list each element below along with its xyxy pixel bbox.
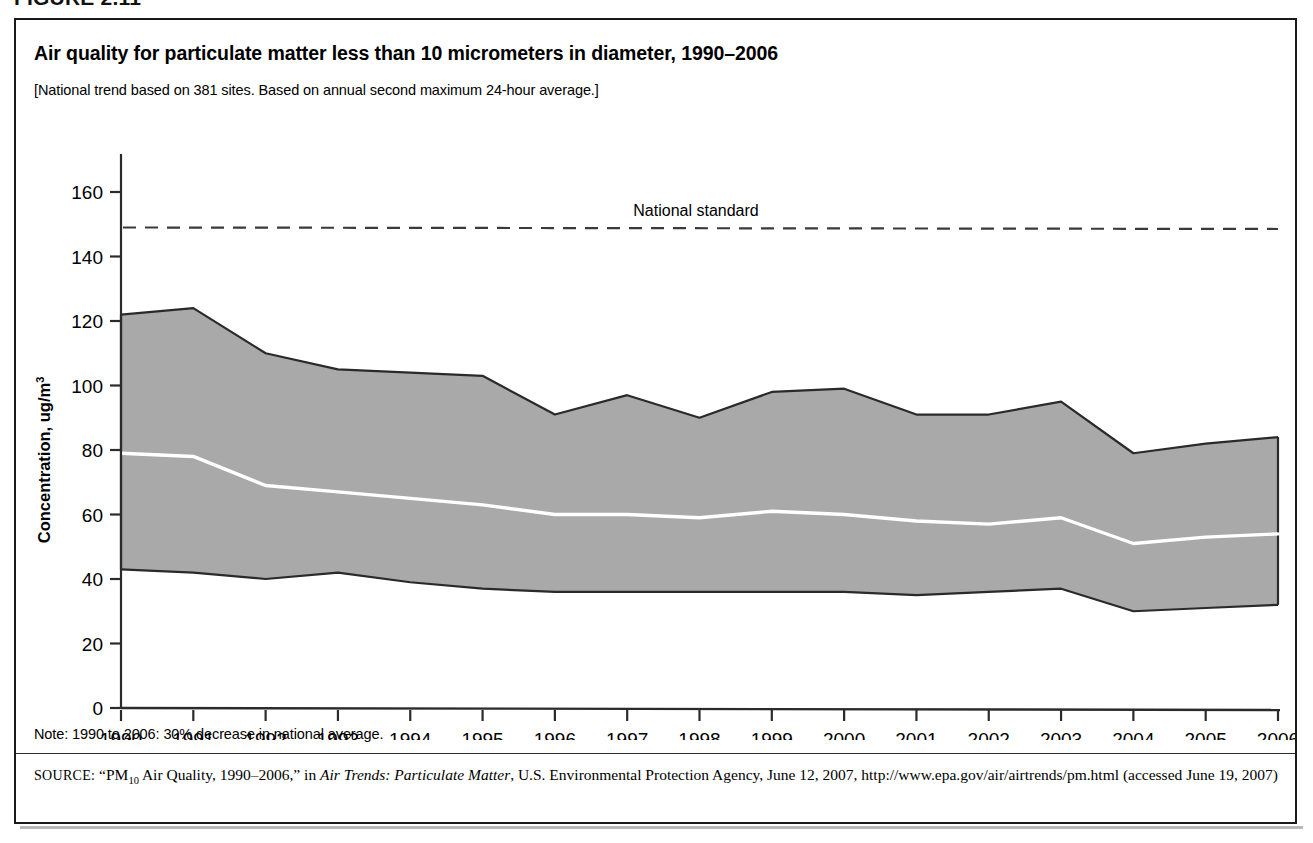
x-axis-tick-label: 2000 <box>823 729 865 740</box>
footer-divider <box>16 753 1295 754</box>
y-axis-tick-label: 0 <box>92 698 103 719</box>
national-standard-label: National standard <box>633 202 758 219</box>
y-axis-tick-label: 100 <box>71 376 103 397</box>
x-axis-line <box>121 708 1280 710</box>
figure-title: Air quality for particulate matter less … <box>34 42 778 65</box>
national-standard-line <box>123 227 1278 229</box>
x-axis-tick-label: 1996 <box>534 729 576 740</box>
y-axis-tick-label: 60 <box>82 505 103 526</box>
x-axis-tick-label: 1997 <box>606 729 648 740</box>
chart-note: Note: 1990 to 2006: 30% decrease in nati… <box>34 726 383 742</box>
x-axis-tick-label: 1999 <box>751 729 793 740</box>
x-axis-tick-label: 1995 <box>461 729 503 740</box>
source-text-3: , U.S. Environmental Protection Agency, … <box>510 766 1278 783</box>
y-axis-tick-label: 120 <box>71 311 103 332</box>
chart-plot-area: National standard02040608010012014016019… <box>16 130 1295 740</box>
x-axis-tick-label: 1998 <box>678 729 720 740</box>
figure-box: Air quality for particulate matter less … <box>14 18 1297 824</box>
y-axis-title: Concentration, ug/m3 <box>34 377 53 544</box>
x-axis-tick-label: 2005 <box>1185 729 1227 740</box>
concentration-band-fill <box>121 308 1278 611</box>
y-axis-tick-label: 40 <box>82 569 103 590</box>
y-axis-tick-label: 20 <box>82 634 103 655</box>
x-axis-tick-label: 2001 <box>895 729 937 740</box>
source-label: SOURCE: <box>34 768 95 783</box>
y-axis-tick-label: 80 <box>82 440 103 461</box>
y-axis-title-text: Concentration, ug/m3 <box>34 377 53 544</box>
figure-subtitle: [National trend based on 381 sites. Base… <box>34 82 599 98</box>
source-publication-title: Air Trends: Particulate Matter <box>320 766 510 783</box>
figure-page: FIGURE 2.11 Air quality for particulate … <box>0 0 1313 843</box>
y-axis-tick-label: 160 <box>71 182 103 203</box>
source-citation: SOURCE: “PM10 Air Quality, 1990–2006,” i… <box>34 765 1278 791</box>
x-axis-tick-label: 2004 <box>1112 729 1155 740</box>
figure-number: FIGURE 2.11 <box>14 0 141 10</box>
source-text-2: Air Quality, 1990–2006,” in <box>139 766 320 783</box>
y-axis-title-exponent: 3 <box>34 377 46 383</box>
area-chart: National standard02040608010012014016019… <box>16 130 1295 740</box>
x-axis-tick-label: 2002 <box>968 729 1010 740</box>
source-subscript: 10 <box>128 775 139 786</box>
x-axis-tick-label: 2003 <box>1040 729 1082 740</box>
x-axis-tick-label: 2006 <box>1257 729 1295 740</box>
x-axis-tick-label: 1994 <box>389 729 432 740</box>
y-axis-tick-label: 140 <box>71 247 103 268</box>
source-text-1: “PM <box>99 766 128 783</box>
